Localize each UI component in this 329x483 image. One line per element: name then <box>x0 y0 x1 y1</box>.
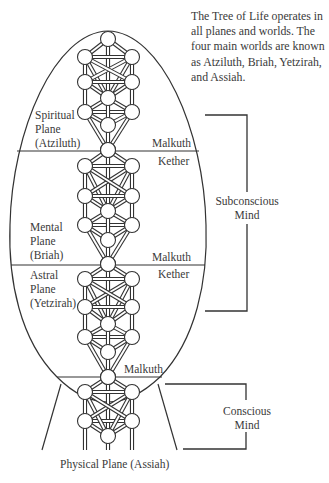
sephirah-node <box>101 91 116 106</box>
sephirah-node <box>101 370 116 385</box>
label-line: Plane <box>35 122 80 136</box>
spiritual-plane-label: Spiritual Plane (Atziluth) <box>35 108 80 150</box>
label-line: Mental <box>30 220 63 234</box>
physical-right-edge <box>158 384 177 450</box>
sephirah-node <box>78 330 93 345</box>
malkuth-label-3: Malkuth <box>124 362 163 376</box>
kether-label-2: Kether <box>158 154 189 168</box>
label-line: (Briah) <box>30 248 63 262</box>
conscious-bracket-lower <box>183 432 246 449</box>
sephirah-node <box>125 414 140 429</box>
sephirah-node <box>125 272 140 287</box>
label-line: Plane <box>30 234 63 248</box>
sephirah-node <box>125 189 140 204</box>
sephirah-node <box>101 257 116 272</box>
sephirah-node <box>78 414 93 429</box>
malkuth-label-1: Malkuth <box>152 136 191 150</box>
conscious-bracket <box>165 384 246 400</box>
sephirah-node <box>125 330 140 345</box>
caption-line: The Tree of Life operates in <box>191 9 326 24</box>
sephirah-node <box>101 118 116 133</box>
caption-line: four main worlds are known <box>191 39 326 54</box>
mental-plane-label: Mental Plane (Briah) <box>30 220 63 262</box>
sephirah-node <box>78 385 93 400</box>
label-line: Subconscious <box>214 194 280 208</box>
label-line: Mind <box>218 418 276 432</box>
sephirah-node <box>78 159 93 174</box>
label-line: Spiritual <box>35 108 80 122</box>
caption-line: as Atziluth, Briah, Yetzirah, <box>191 55 326 70</box>
sephirah-node <box>78 189 93 204</box>
caption-line: all planes and worlds. The <box>191 24 326 39</box>
caption-line: and Assiah. <box>191 70 326 85</box>
subconscious-mind-label: Subconscious Mind <box>214 194 280 222</box>
conscious-mind-label: Conscious Mind <box>218 404 276 432</box>
sephirah-node <box>125 50 140 65</box>
kether-label-3: Kether <box>158 267 189 281</box>
sephirah-node <box>78 50 93 65</box>
label-line: Astral <box>30 268 76 282</box>
sephirah-node <box>125 300 140 315</box>
malkuth-label-2: Malkuth <box>152 250 191 264</box>
sephirah-node <box>125 218 140 233</box>
sephirah-node <box>125 75 140 90</box>
physical-plane-label: Physical Plane (Assiah) <box>60 457 169 471</box>
astral-plane-label: Astral Plane (Yetzirah) <box>30 268 76 310</box>
label-line: Mind <box>214 208 280 222</box>
sephirah-node <box>101 345 116 360</box>
sephirah-node <box>101 429 116 444</box>
sephirah-node <box>101 317 116 332</box>
subconscious-bracket-lower <box>205 224 247 311</box>
sephirah-node <box>78 218 93 233</box>
sephirah-node <box>101 204 116 219</box>
sephirah-node <box>101 32 116 47</box>
sephirah-node <box>101 233 116 248</box>
label-line: Conscious <box>218 404 276 418</box>
sephirah-node <box>101 143 116 158</box>
sephirah-node <box>125 385 140 400</box>
sephirah-node <box>125 105 140 120</box>
sephirah-node <box>78 300 93 315</box>
label-line: (Atziluth) <box>35 136 80 150</box>
label-line: Plane <box>30 282 76 296</box>
trees-of-life <box>78 32 140 451</box>
label-line: (Yetzirah) <box>30 296 76 310</box>
physical-left-edge <box>42 384 61 450</box>
sephirah-node <box>78 75 93 90</box>
sephirah-node <box>78 272 93 287</box>
subconscious-bracket <box>205 115 247 192</box>
sephirah-node <box>125 159 140 174</box>
caption-text: The Tree of Life operates in all planes … <box>191 9 326 85</box>
